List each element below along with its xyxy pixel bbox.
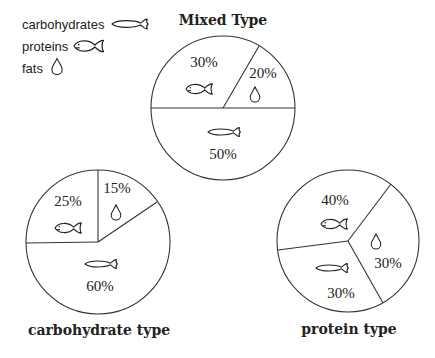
slice-label-fats: 15% — [103, 180, 131, 196]
fish-icon — [55, 223, 81, 233]
carrot-icon — [208, 128, 240, 137]
pie-divider — [348, 184, 391, 241]
pie-divider — [98, 202, 157, 242]
legend-item-fats: fats — [22, 58, 62, 76]
carrot-icon — [316, 264, 348, 273]
pie-mixed-type: Mixed Type 30% 20% 50% — [151, 12, 295, 180]
chart-title-protein: protein type — [301, 321, 397, 337]
carrot-icon — [85, 260, 117, 269]
legend-label-proteins: proteins — [22, 39, 69, 54]
fish-icon — [74, 40, 103, 51]
slice-label-proteins: 25% — [54, 193, 82, 209]
pie-divider — [278, 241, 348, 250]
carrot-icon — [112, 19, 148, 29]
chart-title-carbohydrate: carbohydrate type — [28, 322, 170, 338]
legend-item-carbohydrates: carbohydrates — [22, 17, 148, 32]
legend-label-carbohydrates: carbohydrates — [22, 17, 105, 32]
chart-title-mixed: Mixed Type — [179, 12, 268, 28]
slice-label-carbohydrates: 50% — [209, 146, 237, 162]
slice-label-proteins: 30% — [190, 54, 218, 70]
drop-icon — [371, 234, 381, 249]
fish-icon — [186, 84, 212, 94]
slice-label-fats: 30% — [374, 255, 402, 271]
pie-carbohydrate-type: 25% 15% 60% carbohydrate type — [26, 170, 170, 338]
slice-label-proteins: 40% — [321, 192, 349, 208]
diet-pie-charts: carbohydrates proteins fats Mixed Type 3… — [0, 0, 435, 358]
pie-protein-type: 40% 30% 30% protein type — [277, 170, 419, 337]
drop-icon — [111, 205, 121, 220]
slice-label-carbohydrates: 60% — [86, 278, 114, 294]
legend-item-proteins: proteins — [22, 39, 103, 54]
drop-icon — [250, 87, 260, 102]
slice-label-carbohydrates: 30% — [327, 285, 355, 301]
drop-icon — [52, 58, 62, 74]
slice-label-fats: 20% — [249, 65, 277, 81]
fish-icon — [321, 219, 347, 229]
legend: carbohydrates proteins fats — [22, 17, 148, 76]
pie-divider — [26, 242, 98, 243]
legend-label-fats: fats — [22, 61, 43, 76]
